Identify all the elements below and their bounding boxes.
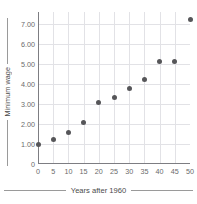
x-axis-title: Years after 1960 xyxy=(66,186,131,195)
x-tick-label: 40 xyxy=(156,167,164,176)
gridline-vertical xyxy=(99,12,100,164)
data-point xyxy=(127,86,132,91)
data-point xyxy=(36,142,41,147)
plot-area xyxy=(38,12,190,164)
data-point xyxy=(112,95,117,100)
x-tick-label: 35 xyxy=(140,167,148,176)
x-tick-label: 20 xyxy=(95,167,103,176)
y-axis-tick-labels: 01.002.003.004.005.006.007.00 xyxy=(11,0,35,204)
x-tick-label: 25 xyxy=(110,167,118,176)
x-axis-title-rule-right xyxy=(131,190,193,191)
data-point xyxy=(66,130,71,135)
gridline-vertical xyxy=(144,12,145,164)
x-tick-label: 50 xyxy=(186,167,194,176)
x-tick-label: 10 xyxy=(64,167,72,176)
y-tick-label: 5.00 xyxy=(13,60,35,69)
data-point xyxy=(157,59,162,64)
y-axis-title-rule-top xyxy=(7,18,8,64)
gridline-vertical xyxy=(68,12,69,164)
x-axis-tick-labels: 05101520253035404550 xyxy=(38,167,190,179)
x-tick-label: 15 xyxy=(80,167,88,176)
x-tick-label: 0 xyxy=(36,167,40,176)
y-tick-label: 7.00 xyxy=(13,20,35,29)
x-axis-title-group: Years after 1960 xyxy=(4,183,193,197)
gridline-vertical xyxy=(84,12,85,164)
y-tick-label: 1.00 xyxy=(13,140,35,149)
y-tick-label: 2.00 xyxy=(13,120,35,129)
y-axis-title-rule-bottom xyxy=(7,120,8,166)
x-axis-line xyxy=(38,163,190,164)
data-point xyxy=(81,120,86,125)
gridlines xyxy=(38,12,190,164)
y-tick-label: 3.00 xyxy=(13,100,35,109)
x-tick-label: 45 xyxy=(171,167,179,176)
x-axis-title-rule-left xyxy=(4,190,66,191)
scatter-chart: Minimum wage 01.002.003.004.005.006.007.… xyxy=(0,0,197,204)
y-tick-label: 0 xyxy=(13,160,35,169)
x-tick-label: 30 xyxy=(125,167,133,176)
gridline-vertical xyxy=(160,12,161,164)
y-tick-label: 6.00 xyxy=(13,40,35,49)
data-point xyxy=(142,77,147,82)
data-point xyxy=(172,59,177,64)
y-tick-label: 4.00 xyxy=(13,80,35,89)
gridline-vertical xyxy=(114,12,115,164)
x-tick-label: 5 xyxy=(51,167,55,176)
gridline-vertical xyxy=(175,12,176,164)
data-point xyxy=(51,137,56,142)
data-point xyxy=(96,100,101,105)
data-point xyxy=(188,17,193,22)
